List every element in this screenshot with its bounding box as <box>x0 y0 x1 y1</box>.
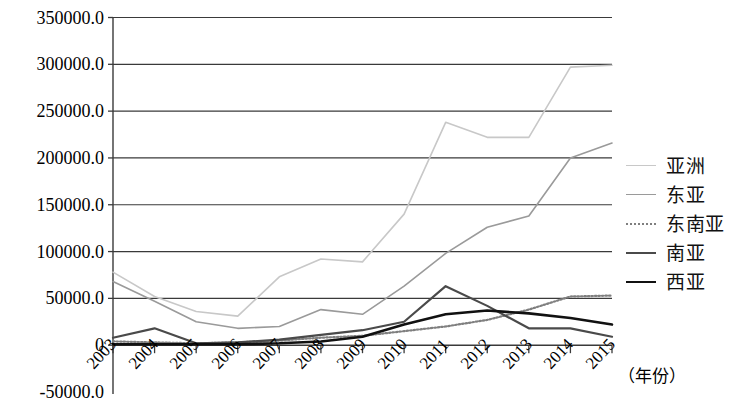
legend-label: 亚洲 <box>666 151 705 178</box>
legend-swatch-icon <box>626 159 656 171</box>
y-axis-tick-label: 100000.0 <box>0 243 104 261</box>
y-axis-tick-label: 200000.0 <box>0 149 104 167</box>
legend-item-2[interactable]: 东南亚 <box>626 208 744 237</box>
legend-item-3[interactable]: 南亚 <box>626 237 744 266</box>
legend-swatch-icon <box>626 246 656 258</box>
y-axis-tick-label: 50000.0 <box>0 289 104 307</box>
legend-item-4[interactable]: 西亚 <box>626 266 744 295</box>
legend-label: 南亚 <box>666 238 705 265</box>
legend-item-0[interactable]: 亚洲 <box>626 150 744 179</box>
legend-swatch-icon <box>626 188 656 200</box>
legend-label: 西亚 <box>666 267 705 294</box>
series-line-1 <box>113 143 612 328</box>
series-line-0 <box>113 65 612 316</box>
y-axis-tick-label: -50000.0 <box>0 383 104 401</box>
legend-swatch-icon <box>626 275 656 287</box>
line-chart: 350000.0300000.0250000.0200000.0150000.0… <box>0 0 747 402</box>
legend-item-1[interactable]: 东亚 <box>626 179 744 208</box>
chart-legend: 亚洲东亚东南亚南亚西亚 <box>626 150 744 295</box>
y-axis-tick-label: 150000.0 <box>0 196 104 214</box>
y-axis-tick-label: 300000.0 <box>0 55 104 73</box>
x-axis-title: （年份） <box>618 368 686 385</box>
y-axis-tick-label: 350000.0 <box>0 9 104 27</box>
y-axis-tick-label: 250000.0 <box>0 102 104 120</box>
y-axis-tick-label: 0 <box>0 336 104 354</box>
legend-label: 东南亚 <box>666 209 725 236</box>
legend-swatch-icon <box>626 217 656 229</box>
legend-label: 东亚 <box>666 180 705 207</box>
